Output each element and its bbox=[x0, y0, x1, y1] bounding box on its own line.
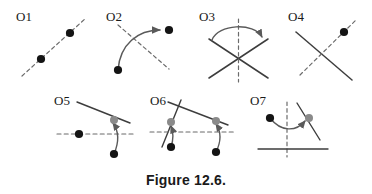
o1-black-dot-upper bbox=[66, 29, 74, 37]
o1-black-dot-lower bbox=[37, 55, 45, 63]
o4-mirror-dashed-line bbox=[300, 20, 356, 75]
o6-gray-dot-left bbox=[167, 118, 175, 126]
figure-caption: Figure 12.6. bbox=[0, 172, 372, 188]
o1-mirror-dashed-line bbox=[22, 18, 86, 76]
diagram-o6: O6 bbox=[146, 94, 242, 164]
o3-rotation-arrow bbox=[212, 27, 262, 40]
diagram-label-o7: O7 bbox=[250, 94, 266, 107]
o5-solid-line bbox=[77, 102, 130, 123]
o6-black-dot-right bbox=[212, 148, 220, 156]
diagram-label-o5: O5 bbox=[54, 94, 70, 107]
diagram-o4: O4 bbox=[286, 8, 370, 86]
diagram-label-o4: O4 bbox=[288, 10, 304, 23]
o2-rotation-arrow bbox=[118, 30, 160, 70]
diagram-o2: O2 bbox=[98, 8, 190, 84]
diagram-label-o2: O2 bbox=[106, 10, 122, 23]
o7-black-dot bbox=[266, 114, 274, 122]
o7-gray-dot bbox=[305, 114, 313, 122]
o5-rotation-arrow bbox=[113, 123, 118, 154]
o6-rotation-arrow-right bbox=[216, 124, 220, 152]
o5-black-dot-axis bbox=[75, 130, 83, 138]
diagram-label-o3: O3 bbox=[199, 10, 215, 23]
diagram-label-o6: O6 bbox=[150, 94, 166, 107]
figure-page: O1 O2 O3 bbox=[0, 0, 372, 194]
diagram-o7: O7 bbox=[248, 94, 342, 164]
o4-solid-line bbox=[296, 32, 352, 80]
o4-black-dot bbox=[340, 28, 348, 36]
o6-gray-dot-right bbox=[212, 117, 220, 125]
diagram-o3: O3 bbox=[192, 8, 284, 86]
o5-black-dot-lower bbox=[110, 150, 118, 158]
o6-black-dot-left bbox=[167, 143, 175, 151]
o2-black-dot-end bbox=[165, 26, 173, 34]
diagram-o1: O1 bbox=[10, 8, 100, 84]
o2-black-dot-start bbox=[114, 66, 122, 74]
diagram-label-o1: O1 bbox=[16, 10, 32, 23]
diagram-o5: O5 bbox=[52, 94, 146, 162]
o5-gray-dot bbox=[110, 116, 118, 124]
